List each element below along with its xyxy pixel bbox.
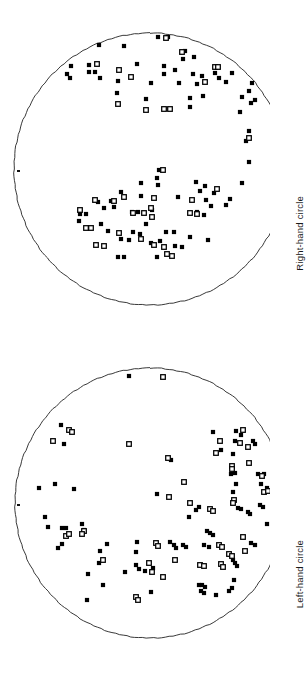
data-point-filled	[181, 57, 185, 61]
data-point-filled	[253, 442, 257, 446]
data-point-filled	[68, 76, 72, 80]
data-point-filled	[200, 74, 204, 78]
data-point-filled	[60, 542, 64, 546]
data-point-filled	[62, 442, 66, 446]
data-point-filled	[135, 540, 139, 544]
data-point-filled	[247, 89, 251, 93]
data-point-filled	[87, 70, 91, 74]
data-point-open	[247, 136, 252, 141]
data-point-open	[136, 598, 141, 603]
data-point-open	[162, 245, 167, 250]
data-point-open	[102, 244, 107, 249]
data-point-open	[231, 501, 236, 506]
data-point-filled	[239, 433, 243, 437]
data-point-filled	[86, 572, 90, 576]
data-point-filled	[224, 203, 228, 207]
data-point-filled	[158, 239, 162, 243]
data-point-open	[149, 206, 154, 211]
data-point-open	[230, 554, 235, 559]
data-point-open	[243, 549, 248, 554]
data-point-open	[188, 211, 193, 216]
data-point-filled	[174, 546, 178, 550]
data-point-filled	[172, 230, 176, 234]
data-point-open	[238, 441, 243, 446]
data-point-filled	[253, 543, 257, 547]
data-point-filled	[219, 448, 223, 452]
data-point-open	[70, 430, 75, 435]
data-point-open	[127, 442, 132, 447]
data-point-filled	[144, 222, 148, 226]
data-point-filled	[139, 194, 143, 198]
data-point-filled	[230, 586, 234, 590]
data-point-open	[89, 226, 94, 231]
data-point-open	[214, 451, 219, 456]
data-point-filled	[194, 508, 198, 512]
data-point-open	[202, 564, 207, 569]
data-point-filled	[98, 76, 102, 80]
data-point-open	[51, 439, 56, 444]
data-point-filled	[249, 101, 253, 105]
data-point-filled	[261, 505, 265, 509]
data-point-open	[211, 509, 216, 514]
data-point-filled	[98, 549, 102, 553]
data-point-filled	[155, 255, 159, 259]
data-point-filled	[123, 570, 127, 574]
data-point-filled	[173, 68, 177, 72]
left-hand-circle-label: Left-hand circle	[295, 540, 305, 608]
data-point-open	[220, 545, 225, 550]
data-point-open	[165, 252, 170, 257]
data-point-open	[93, 198, 98, 203]
data-point-filled	[72, 487, 76, 491]
data-point-open	[117, 231, 122, 236]
data-point-open	[150, 570, 155, 575]
data-point-open	[156, 544, 161, 549]
data-point-filled	[162, 72, 166, 76]
data-point-filled	[231, 490, 235, 494]
axis-tick-right-hand-circle	[17, 170, 20, 172]
data-point-filled	[191, 72, 195, 76]
data-point-filled	[137, 567, 141, 571]
data-point-filled	[188, 235, 192, 239]
data-point-open	[117, 68, 122, 73]
data-point-open	[221, 565, 226, 570]
data-point-open	[67, 532, 72, 537]
data-point-filled	[177, 81, 181, 85]
data-point-filled	[116, 79, 120, 83]
data-point-filled	[131, 230, 135, 234]
data-point-open	[167, 495, 172, 500]
data-point-filled	[60, 526, 64, 530]
data-point-filled	[134, 550, 138, 554]
data-point-filled	[64, 526, 68, 530]
data-point-filled	[240, 95, 244, 99]
data-point-filled	[53, 482, 57, 486]
data-point-filled	[228, 197, 232, 201]
data-point-open	[122, 195, 127, 200]
data-point-open	[216, 65, 221, 70]
data-point-open	[170, 254, 175, 259]
data-point-filled	[168, 540, 172, 544]
data-point-open	[190, 198, 195, 203]
data-point-filled	[195, 82, 199, 86]
data-point-filled	[102, 206, 106, 210]
data-point-filled	[162, 64, 166, 68]
data-point-open	[230, 467, 235, 472]
data-point-filled	[119, 190, 123, 194]
data-point-filled	[247, 160, 251, 164]
data-point-open	[101, 558, 106, 563]
data-point-filled	[97, 43, 101, 47]
data-point-open	[246, 445, 251, 450]
data-point-filled	[259, 482, 263, 486]
data-point-filled	[164, 230, 168, 234]
data-point-filled	[235, 564, 239, 568]
data-point-filled	[112, 205, 116, 209]
data-point-filled	[155, 492, 159, 496]
data-point-open	[266, 489, 270, 494]
data-point-filled	[230, 71, 234, 75]
data-point-open	[180, 50, 185, 55]
data-point-filled	[119, 237, 123, 241]
data-point-filled	[202, 213, 206, 217]
data-point-filled	[265, 522, 269, 526]
data-point-filled	[56, 546, 60, 550]
data-point-filled	[135, 62, 139, 66]
data-point-open	[144, 108, 149, 113]
